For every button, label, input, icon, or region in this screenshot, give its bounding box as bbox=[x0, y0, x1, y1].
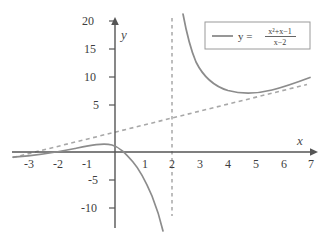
legend[interactable]: y = x²+x−1 x−2 bbox=[205, 22, 310, 49]
x-tick-label-minus1: -1 bbox=[82, 157, 92, 171]
x-tick-label-6: 6 bbox=[281, 157, 287, 171]
x-tick-label-3: 3 bbox=[197, 157, 203, 171]
legend-fraction-numerator: x²+x−1 bbox=[268, 27, 291, 36]
y-tick-label-15: 15 bbox=[84, 42, 96, 56]
function-graph-figure: y x 20 15 10 5 -5 -10 -3 -2 -1 1 2 3 4 5… bbox=[0, 0, 330, 235]
x-tick-label-1: 1 bbox=[142, 157, 148, 171]
y-tick-label-minus5: -5 bbox=[88, 173, 98, 187]
x-tick-label-2: 2 bbox=[169, 157, 175, 171]
legend-label-prefix: y = bbox=[238, 30, 252, 42]
x-tick-label-minus3: -3 bbox=[24, 157, 34, 171]
y-axis-label: y bbox=[119, 27, 127, 42]
x-tick-label-minus2: -2 bbox=[53, 157, 63, 171]
legend-fraction-denominator: x−2 bbox=[274, 38, 287, 47]
x-axis-label: x bbox=[296, 133, 303, 148]
x-tick-label-4: 4 bbox=[225, 157, 231, 171]
x-tick-label-5: 5 bbox=[253, 157, 259, 171]
y-tick-label-minus10: -10 bbox=[81, 201, 97, 215]
y-tick-label-5: 5 bbox=[93, 98, 99, 112]
y-tick-label-20: 20 bbox=[82, 14, 94, 28]
y-tick-label-10: 10 bbox=[84, 70, 96, 84]
x-tick-label-7: 7 bbox=[308, 157, 314, 171]
